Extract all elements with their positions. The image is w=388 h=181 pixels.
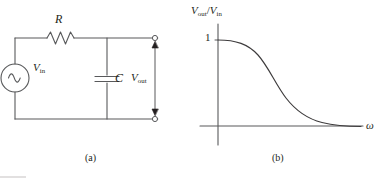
plot-y-tick-label: 1 xyxy=(205,32,211,43)
resistor-symbol xyxy=(47,32,74,44)
plot-y-axis-label-sub-in: in xyxy=(217,10,223,17)
ac-source-circle xyxy=(1,64,29,92)
ac-source-sine xyxy=(9,74,21,82)
response-plot xyxy=(200,24,363,145)
output-label-subscript: out xyxy=(138,77,147,84)
page-edge-artifact xyxy=(0,176,26,178)
source-label-subscript: in xyxy=(40,67,46,74)
output-label-v: V xyxy=(131,71,138,83)
caption-panel-a: (a) xyxy=(85,152,96,163)
source-label: Vin xyxy=(33,62,45,73)
plot-y-axis-label-v-in: V xyxy=(210,4,217,16)
plot-y-axis-label: Vout/Vin xyxy=(191,5,222,16)
plot-y-axis-label-sub-out: out xyxy=(198,10,207,17)
response-curve xyxy=(218,40,361,127)
figure-container: R Vin C Vout Vout/Vin 1 ω (a) (b) xyxy=(0,0,388,181)
resistor-label: R xyxy=(55,13,62,25)
output-label: Vout xyxy=(131,72,147,83)
vout-arrowhead-bottom xyxy=(152,109,158,116)
figure-svg xyxy=(0,0,388,181)
output-terminal-bottom xyxy=(152,116,157,121)
plot-y-axis-label-v-out: V xyxy=(191,4,198,16)
plot-x-axis-label: ω xyxy=(366,120,374,131)
source-label-v: V xyxy=(33,61,40,73)
caption-panel-b: (b) xyxy=(272,152,284,163)
output-terminal-top xyxy=(152,35,157,40)
vout-arrowhead-top xyxy=(152,42,158,49)
capacitor-label: C xyxy=(115,72,123,84)
